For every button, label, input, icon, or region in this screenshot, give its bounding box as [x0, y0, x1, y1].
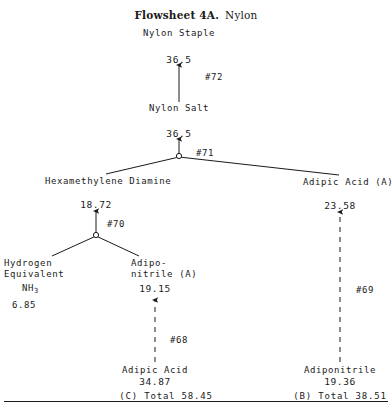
value-hydrogen-equivalent-amount: 6.85 — [12, 300, 36, 311]
value-nylon-salt-input: 36.5 — [166, 128, 191, 139]
junction-71 — [176, 153, 181, 158]
node-adipic-acid-feed: Adipic Acid — [122, 365, 188, 376]
value-nylon-staple-input: 36.5 — [166, 54, 191, 65]
hydrogen-equivalent-line2: Equivalent — [4, 269, 64, 280]
hydrogen-equivalent-line1: Hydrogen — [4, 258, 64, 269]
value-adiponitrile-feed-amount: 19.36 — [324, 376, 356, 387]
figure-title: Flowsheet 4A.Nylon — [0, 9, 392, 21]
stream-70-branch-left — [52, 236, 96, 256]
value-adiponitrile-a-input: 19.15 — [139, 283, 171, 294]
stream-70-branch-right — [96, 236, 139, 256]
node-adipic-acid-a: Adipic Acid (A) — [303, 177, 392, 188]
bottom-divider — [4, 401, 388, 402]
node-hexamethylene-diamine: Hexamethylene Diamine — [45, 176, 171, 187]
stream-label-72: #72 — [205, 72, 223, 83]
ammonia-formula-subscript: 3 — [34, 287, 39, 295]
node-hydrogen-equivalent: Hydrogen Equivalent — [4, 258, 64, 280]
ammonia-formula-base: NH — [22, 283, 34, 293]
node-ammonia-formula: NH3 — [22, 283, 39, 297]
junction-70 — [93, 232, 98, 237]
value-adipic-acid-a-input: 23.58 — [324, 200, 356, 211]
node-nylon-salt: Nylon Salt — [149, 103, 209, 114]
node-nylon-staple: Nylon Staple — [143, 28, 215, 39]
stream-71-branch-right — [179, 157, 339, 175]
adiponitrile-a-line1: Adipo- — [131, 258, 197, 269]
value-hmd-input: 18.72 — [80, 199, 112, 210]
adiponitrile-a-line2: nitrile (A) — [131, 269, 197, 280]
stream-71-branch-left — [106, 157, 179, 174]
figure-title-subject: Nylon — [225, 9, 258, 21]
figure-title-label: Flowsheet 4A. — [134, 9, 219, 21]
stream-label-70: #70 — [107, 219, 125, 230]
flowsheet-diagram: Flowsheet 4A.Nylon Nylon Staple — [0, 0, 392, 409]
value-adipic-acid-feed-amount: 34.87 — [139, 376, 171, 387]
node-adiponitrile-feed: Adiponitrile — [304, 365, 376, 376]
stream-label-71: #71 — [196, 148, 214, 159]
stream-label-68: #68 — [170, 335, 188, 346]
node-adiponitrile-a: Adipo- nitrile (A) — [131, 258, 197, 280]
stream-label-69: #69 — [356, 285, 374, 296]
